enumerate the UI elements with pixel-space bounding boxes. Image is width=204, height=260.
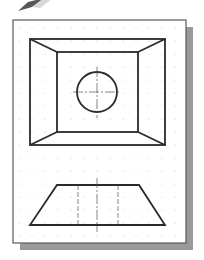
drawing-sheet-figure — [0, 0, 204, 260]
pencil-icon — [18, 0, 52, 11]
orthographic-drawing — [0, 0, 204, 260]
